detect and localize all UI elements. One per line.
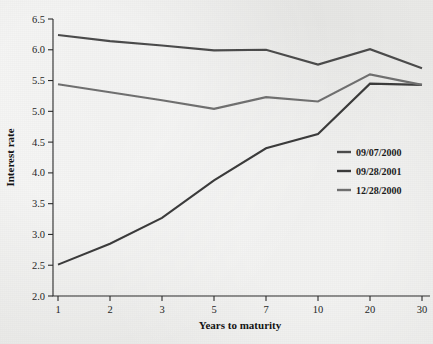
data-line-09-07-2000 — [58, 35, 422, 68]
y-axis-title: Interest rate — [4, 128, 16, 186]
legend-label: 12/28/2000 — [356, 185, 402, 196]
x-tick-label: 20 — [365, 304, 376, 315]
y-tick-label: 2.0 — [32, 291, 45, 302]
y-tick-label: 3.0 — [32, 229, 45, 240]
y-tick-label: 4.0 — [32, 167, 45, 178]
x-tick-label: 10 — [313, 304, 324, 315]
y-tick-label: 6.0 — [32, 44, 45, 55]
x-tick-label: 1 — [55, 304, 60, 315]
x-tick-label: 2 — [107, 304, 112, 315]
x-axis-title: Years to maturity — [199, 319, 282, 331]
y-tick-label: 5.0 — [32, 106, 45, 117]
y-tick-label: 2.5 — [32, 260, 45, 271]
x-axis-ticks: 12357102030 — [55, 296, 427, 315]
legend-label: 09/28/2001 — [356, 166, 402, 177]
x-tick-label: 5 — [211, 304, 216, 315]
y-tick-label: 4.5 — [32, 137, 45, 148]
y-axis-ticks: 2.02.53.03.54.04.55.05.56.06.5 — [32, 14, 53, 302]
legend: 09/07/200009/28/200112/28/2000 — [337, 147, 402, 196]
legend-label: 09/07/2000 — [356, 147, 402, 158]
y-tick-label: 3.5 — [32, 198, 45, 209]
x-tick-label: 30 — [417, 304, 428, 315]
chart-figure: 2.02.53.03.54.04.55.05.56.06.51235710203… — [0, 0, 433, 344]
x-tick-label: 3 — [159, 304, 164, 315]
y-tick-label: 6.5 — [32, 14, 45, 25]
y-tick-label: 5.5 — [32, 75, 45, 86]
x-tick-label: 7 — [263, 304, 268, 315]
data-line-12-28-2000 — [58, 74, 422, 108]
line-chart: 2.02.53.03.54.04.55.05.56.06.51235710203… — [0, 0, 433, 344]
